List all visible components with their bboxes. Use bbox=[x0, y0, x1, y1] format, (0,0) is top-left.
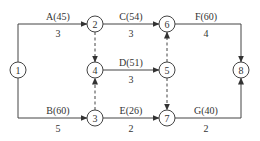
activity-d-label: D(51) bbox=[119, 57, 143, 69]
activity-b-label: B(60) bbox=[46, 105, 69, 117]
node-1-label: 1 bbox=[16, 65, 21, 76]
node-7: 7 bbox=[159, 110, 175, 126]
node-2: 2 bbox=[87, 16, 103, 32]
node-3: 3 bbox=[87, 110, 103, 126]
activity-g-label: G(40) bbox=[194, 105, 218, 117]
activity-f-duration: 4 bbox=[204, 28, 209, 39]
activity-b-duration: 5 bbox=[56, 123, 61, 134]
node-2-label: 2 bbox=[93, 19, 98, 30]
node-6-label: 6 bbox=[165, 19, 170, 30]
node-6: 6 bbox=[159, 16, 175, 32]
activity-a-label: A(45) bbox=[46, 11, 70, 23]
node-5-label: 5 bbox=[165, 65, 170, 76]
activity-d-duration: 3 bbox=[129, 74, 134, 85]
activity-a-duration: 3 bbox=[56, 28, 61, 39]
activity-f-label: F(60) bbox=[195, 11, 217, 23]
node-4: 4 bbox=[87, 62, 103, 78]
network-diagram: A(45) 3 B(60) 5 C(54) 3 D(51) 3 E(26) 2 … bbox=[0, 0, 260, 141]
node-7-label: 7 bbox=[165, 113, 170, 124]
activity-g-duration: 2 bbox=[204, 123, 209, 134]
node-4-label: 4 bbox=[93, 65, 98, 76]
activity-c-label: C(54) bbox=[119, 11, 142, 23]
activity-e-label: E(26) bbox=[120, 105, 143, 117]
node-5: 5 bbox=[159, 62, 175, 78]
node-1: 1 bbox=[10, 62, 26, 78]
node-3-label: 3 bbox=[93, 113, 98, 124]
node-8-label: 8 bbox=[239, 65, 244, 76]
activity-a-arrow bbox=[18, 24, 87, 62]
activity-e-duration: 2 bbox=[129, 123, 134, 134]
node-8: 8 bbox=[233, 62, 249, 78]
activity-c-duration: 3 bbox=[129, 28, 134, 39]
